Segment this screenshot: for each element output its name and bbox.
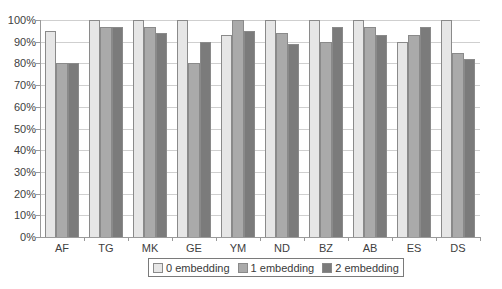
bar-ds-0-embedding (441, 20, 453, 237)
bar-mk-0-embedding (133, 20, 145, 237)
legend: 0 embedding 1 embedding 2 embedding (148, 258, 404, 277)
x-tick (84, 237, 85, 241)
bar-ym-2-embedding (244, 31, 256, 237)
bar-ym-0-embedding (221, 35, 233, 237)
legend-swatch-2-embedding (322, 263, 332, 273)
bar-es-0-embedding (397, 42, 409, 237)
bar-af-0-embedding (45, 31, 57, 237)
x-tick-label: ND (260, 242, 304, 254)
y-tick-label: 100% (0, 14, 36, 26)
x-tick (480, 237, 481, 241)
legend-label: 1 embedding (251, 262, 315, 274)
x-tick-label: AF (40, 242, 84, 254)
bar-tg-0-embedding (89, 20, 101, 237)
bar-bz-0-embedding (309, 20, 321, 237)
bar-es-1-embedding (408, 35, 420, 237)
bar-ge-0-embedding (177, 20, 189, 237)
legend-item-0-embedding: 0 embedding (153, 262, 230, 274)
gridline (40, 20, 480, 21)
bar-tg-1-embedding (100, 27, 112, 237)
bar-ge-2-embedding (200, 42, 212, 237)
x-tick-label: AB (348, 242, 392, 254)
y-tick-label: 30% (0, 166, 36, 178)
x-tick (128, 237, 129, 241)
x-tick-label: TG (84, 242, 128, 254)
x-tick-label: DS (436, 242, 480, 254)
bar-mk-1-embedding (144, 27, 156, 237)
bar-bz-2-embedding (332, 27, 344, 237)
bar-nd-2-embedding (288, 44, 300, 237)
bar-ge-1-embedding (188, 63, 200, 237)
x-tick (216, 237, 217, 241)
legend-label: 0 embedding (166, 262, 230, 274)
grouped-bar-chart: 0%10%20%30%40%50%60%70%80%90%100%AFTGMKG… (0, 0, 502, 289)
x-tick (392, 237, 393, 241)
legend-swatch-0-embedding (153, 263, 163, 273)
y-tick-label: 0% (0, 231, 36, 243)
x-tick (436, 237, 437, 241)
bar-ab-0-embedding (353, 20, 365, 237)
bar-ds-1-embedding (452, 53, 464, 237)
y-tick-label: 10% (0, 209, 36, 221)
legend-item-1-embedding: 1 embedding (238, 262, 315, 274)
y-axis (40, 20, 41, 237)
bar-tg-2-embedding (112, 27, 124, 237)
x-tick (172, 237, 173, 241)
x-tick (260, 237, 261, 241)
y-tick-label: 20% (0, 188, 36, 200)
bar-ds-2-embedding (464, 59, 476, 237)
bar-af-2-embedding (68, 63, 80, 237)
y-tick-label: 50% (0, 123, 36, 135)
x-tick-label: BZ (304, 242, 348, 254)
bar-nd-1-embedding (276, 33, 288, 237)
bar-ab-2-embedding (376, 35, 388, 237)
legend-label: 2 embedding (335, 262, 399, 274)
legend-swatch-1-embedding (238, 263, 248, 273)
y-tick-label: 60% (0, 101, 36, 113)
bar-bz-1-embedding (320, 42, 332, 237)
x-tick-label: MK (128, 242, 172, 254)
x-tick (304, 237, 305, 241)
bar-af-1-embedding (56, 63, 68, 237)
y-tick-label: 90% (0, 36, 36, 48)
bar-nd-0-embedding (265, 20, 277, 237)
x-tick-label: ES (392, 242, 436, 254)
legend-item-2-embedding: 2 embedding (322, 262, 399, 274)
x-tick (348, 237, 349, 241)
bar-ym-1-embedding (232, 20, 244, 237)
bar-es-2-embedding (420, 27, 432, 237)
bar-mk-2-embedding (156, 33, 168, 237)
y-tick-label: 80% (0, 57, 36, 69)
bar-ab-1-embedding (364, 27, 376, 237)
y-tick-label: 40% (0, 144, 36, 156)
x-tick-label: GE (172, 242, 216, 254)
x-tick-label: YM (216, 242, 260, 254)
y-tick-label: 70% (0, 79, 36, 91)
